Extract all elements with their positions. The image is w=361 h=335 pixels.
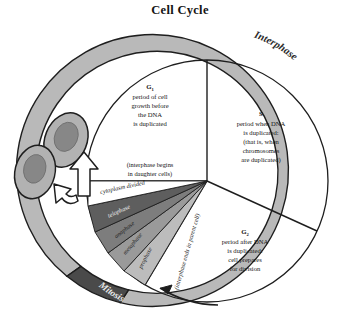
branch-arrow <box>54 184 78 203</box>
s-line-1: period when DNA <box>237 120 286 127</box>
g2-line-2: is duplicated: <box>227 247 263 254</box>
divider-s-g2 <box>207 181 317 231</box>
g2-line-3: cell prepares <box>228 256 262 263</box>
sector-text-g1: G1 period of cell growth before the DNA … <box>131 83 168 127</box>
g1-line-3: the DNA <box>138 111 162 118</box>
g1-heading: G1 <box>146 83 154 92</box>
g2-heading: G2 <box>241 228 249 237</box>
g1-line-2: growth before <box>131 102 168 109</box>
s-line-3: (that is, when <box>243 138 279 146</box>
s-line-4: chromosomes <box>243 147 280 154</box>
g2-line-4: for division <box>230 265 261 272</box>
interphase-begins-line-2: in daughter cells) <box>128 170 172 178</box>
cell-cycle-svg: Cell Cycle <box>0 0 361 335</box>
cell-cycle-diagram: Cell Cycle <box>0 0 361 335</box>
interphase-begins-line-1: (interphase begins <box>127 161 174 169</box>
g1-line-1: period of cell <box>132 93 167 100</box>
s-heading: S <box>259 110 263 117</box>
g1-line-4: is duplicated <box>133 120 167 127</box>
page-title: Cell Cycle <box>151 3 209 17</box>
curved-arrow-left-icon <box>54 184 78 203</box>
s-line-2: is duplicated: <box>243 129 279 136</box>
g2-line-1: period after DNA <box>222 238 269 245</box>
note-interphase-begins: (interphase begins in daughter cells) <box>127 161 174 178</box>
interphase-label: Interphase <box>252 28 300 62</box>
s-line-5: are duplicated) <box>241 156 280 164</box>
